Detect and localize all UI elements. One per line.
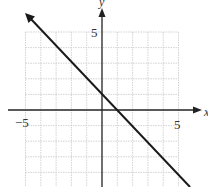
x-axis-label: x bbox=[203, 105, 208, 119]
coordinate-plane: −5 5 5 −5 y x bbox=[0, 0, 208, 187]
x-axis-arrow-icon bbox=[193, 107, 202, 114]
y-tick-neg5: −5 bbox=[90, 183, 104, 187]
y-axis-arrow-icon bbox=[99, 8, 106, 17]
series-line bbox=[30, 18, 190, 187]
x-tick-neg5: −5 bbox=[15, 115, 29, 130]
x-tick-5: 5 bbox=[174, 117, 181, 132]
y-tick-5: 5 bbox=[91, 25, 98, 40]
y-axis-label: y bbox=[98, 0, 105, 9]
plot-line bbox=[25, 13, 190, 187]
